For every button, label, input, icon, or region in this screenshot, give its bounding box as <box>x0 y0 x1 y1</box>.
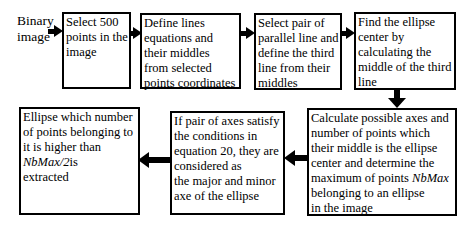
box-text-line: points in the <box>66 30 127 45</box>
arrow-shaft <box>394 89 400 98</box>
box-text-line: from selected <box>144 61 237 76</box>
box-text-line: center by <box>358 30 452 45</box>
box-define-lines: Define linesequations andtheir middlesfr… <box>140 13 241 89</box>
box-select-points: Select 500points in theimage <box>62 12 131 89</box>
arrow-shaft <box>149 157 171 163</box>
box-text-line: Select pair of <box>258 16 338 31</box>
arrow-right-icon <box>48 25 63 37</box>
box-text-line: their middle is the ellipse <box>311 141 453 156</box>
arrow-head <box>388 98 406 108</box>
box-text-line: NbMax/2is <box>23 155 136 170</box>
box-text-line: number of points which <box>311 126 453 141</box>
arrow-left-icon <box>284 150 308 166</box>
box-text-line: points coordinates <box>144 76 237 91</box>
box-text-line: define the third <box>258 46 338 61</box>
box-text-line: calculating the <box>358 45 452 60</box>
arrow-head <box>138 152 149 168</box>
box-text-line: axe of the ellipse <box>174 189 281 204</box>
box-text-line: image <box>66 45 127 60</box>
box-text-line: center and determine the <box>311 156 453 171</box>
arrow-head <box>54 25 63 37</box>
box-text-line: Calculate possible axes and <box>311 111 453 126</box>
box-text-line: equations and <box>144 31 237 46</box>
box-text-line: belonging to an ellipse <box>311 186 453 201</box>
box-text-line: considered as <box>174 159 281 174</box>
box-text-line: line from their <box>258 61 338 76</box>
box-text-line: of points belonging to <box>23 125 136 140</box>
box-axes-condition: If pair of axes satisfythe conditions in… <box>170 111 285 215</box>
box-text-line: parallel line and <box>258 31 338 46</box>
box-text-line: middles <box>258 76 338 91</box>
arrow-right-icon <box>129 27 142 39</box>
box-text-line: in the image <box>311 201 453 216</box>
arrow-right-icon <box>340 27 355 39</box>
box-text-line: the conditions in <box>174 129 281 144</box>
box-ellipse-extracted: Ellipse which numberof points belonging … <box>19 107 140 215</box>
arrow-shaft <box>295 155 308 161</box>
box-text-line: middle of the third <box>358 60 452 75</box>
box-text-line: their middles <box>144 46 237 61</box>
arrow-down-icon <box>388 89 406 108</box>
box-text-line: maximum of points NbMax <box>311 171 453 186</box>
arrow-left-icon <box>138 152 171 168</box>
box-text-line: line <box>358 75 452 90</box>
box-text-line: Select 500 <box>66 15 127 30</box>
box-text-line: the major and minor <box>174 174 281 189</box>
arrow-head <box>284 150 295 166</box>
box-text-line: If pair of axes satisfy <box>174 114 281 129</box>
arrow-head <box>346 27 355 39</box>
arrow-shaft <box>239 31 246 36</box>
box-text-line: equation 20, they are <box>174 144 281 159</box>
box-text-line: Ellipse which number <box>23 110 136 125</box>
flowchart-diagram: Binary image Select 500points in theimag… <box>0 0 475 229</box>
arrow-head <box>133 27 142 39</box>
box-text-line: extracted <box>23 170 136 185</box>
box-text-line: Define lines <box>144 16 237 31</box>
box-text-line: Find the ellipse <box>358 15 452 30</box>
arrow-head <box>246 27 255 39</box>
box-find-ellipse-center: Find the ellipsecenter bycalculating the… <box>354 12 456 90</box>
box-select-parallel-pair: Select pair ofparallel line anddefine th… <box>254 13 342 90</box>
box-text-line: it is higher than <box>23 140 136 155</box>
arrow-right-icon <box>239 27 255 39</box>
box-calculate-axes: Calculate possible axes andnumber of poi… <box>307 108 457 216</box>
